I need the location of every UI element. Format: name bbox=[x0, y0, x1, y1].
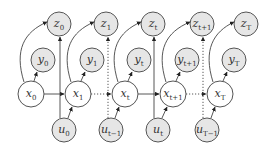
node-uT_1: uT−1 bbox=[195, 118, 219, 142]
node-ut_1: ut−1 bbox=[99, 118, 123, 142]
edge-x0-y0 bbox=[34, 72, 37, 81]
node-ut: ut bbox=[146, 118, 170, 142]
node-z0: z0 bbox=[47, 12, 71, 36]
edge-u0-x1 bbox=[68, 107, 72, 118]
node-z1: z1 bbox=[94, 12, 118, 36]
diagram-svg: z0z1ztzt+1zTy0y1ytyt+1yTx0x1xtxt+1xTu0ut… bbox=[0, 0, 276, 152]
node-xT: xT bbox=[207, 81, 233, 107]
edge-xT-yT bbox=[223, 72, 227, 81]
graphical-model-diagram: z0z1ztzt+1zTy0y1ytyt+1yTx0x1xtxt+1xTu0ut… bbox=[0, 0, 276, 152]
node-y1: y1 bbox=[80, 48, 104, 72]
edge-xt-yt bbox=[128, 72, 132, 81]
node-zt1: zt+1 bbox=[190, 12, 214, 36]
node-zT: zT bbox=[234, 12, 258, 36]
node-zt: zt bbox=[141, 12, 165, 36]
node-yT: yT bbox=[222, 48, 246, 72]
node-x1: x1 bbox=[65, 81, 91, 107]
node-u0: u0 bbox=[52, 118, 76, 142]
node-xt: xt bbox=[112, 81, 138, 107]
node-x0: x0 bbox=[18, 81, 44, 107]
edge-xt1-yt1 bbox=[176, 72, 180, 81]
node-yt1: yt+1 bbox=[175, 48, 199, 72]
nodes: z0z1ztzt+1zTy0y1ytyt+1yTx0x1xtxt+1xTu0ut… bbox=[18, 12, 258, 142]
edge-uT_1-xT bbox=[211, 107, 215, 118]
edge-x1-y1 bbox=[81, 72, 85, 81]
node-y0: y0 bbox=[31, 48, 55, 72]
node-yt: yt bbox=[127, 48, 151, 72]
edge-ut-xt1 bbox=[162, 107, 167, 118]
edge-ut_1-xt bbox=[115, 107, 119, 118]
node-xt1: xt+1 bbox=[160, 81, 186, 107]
